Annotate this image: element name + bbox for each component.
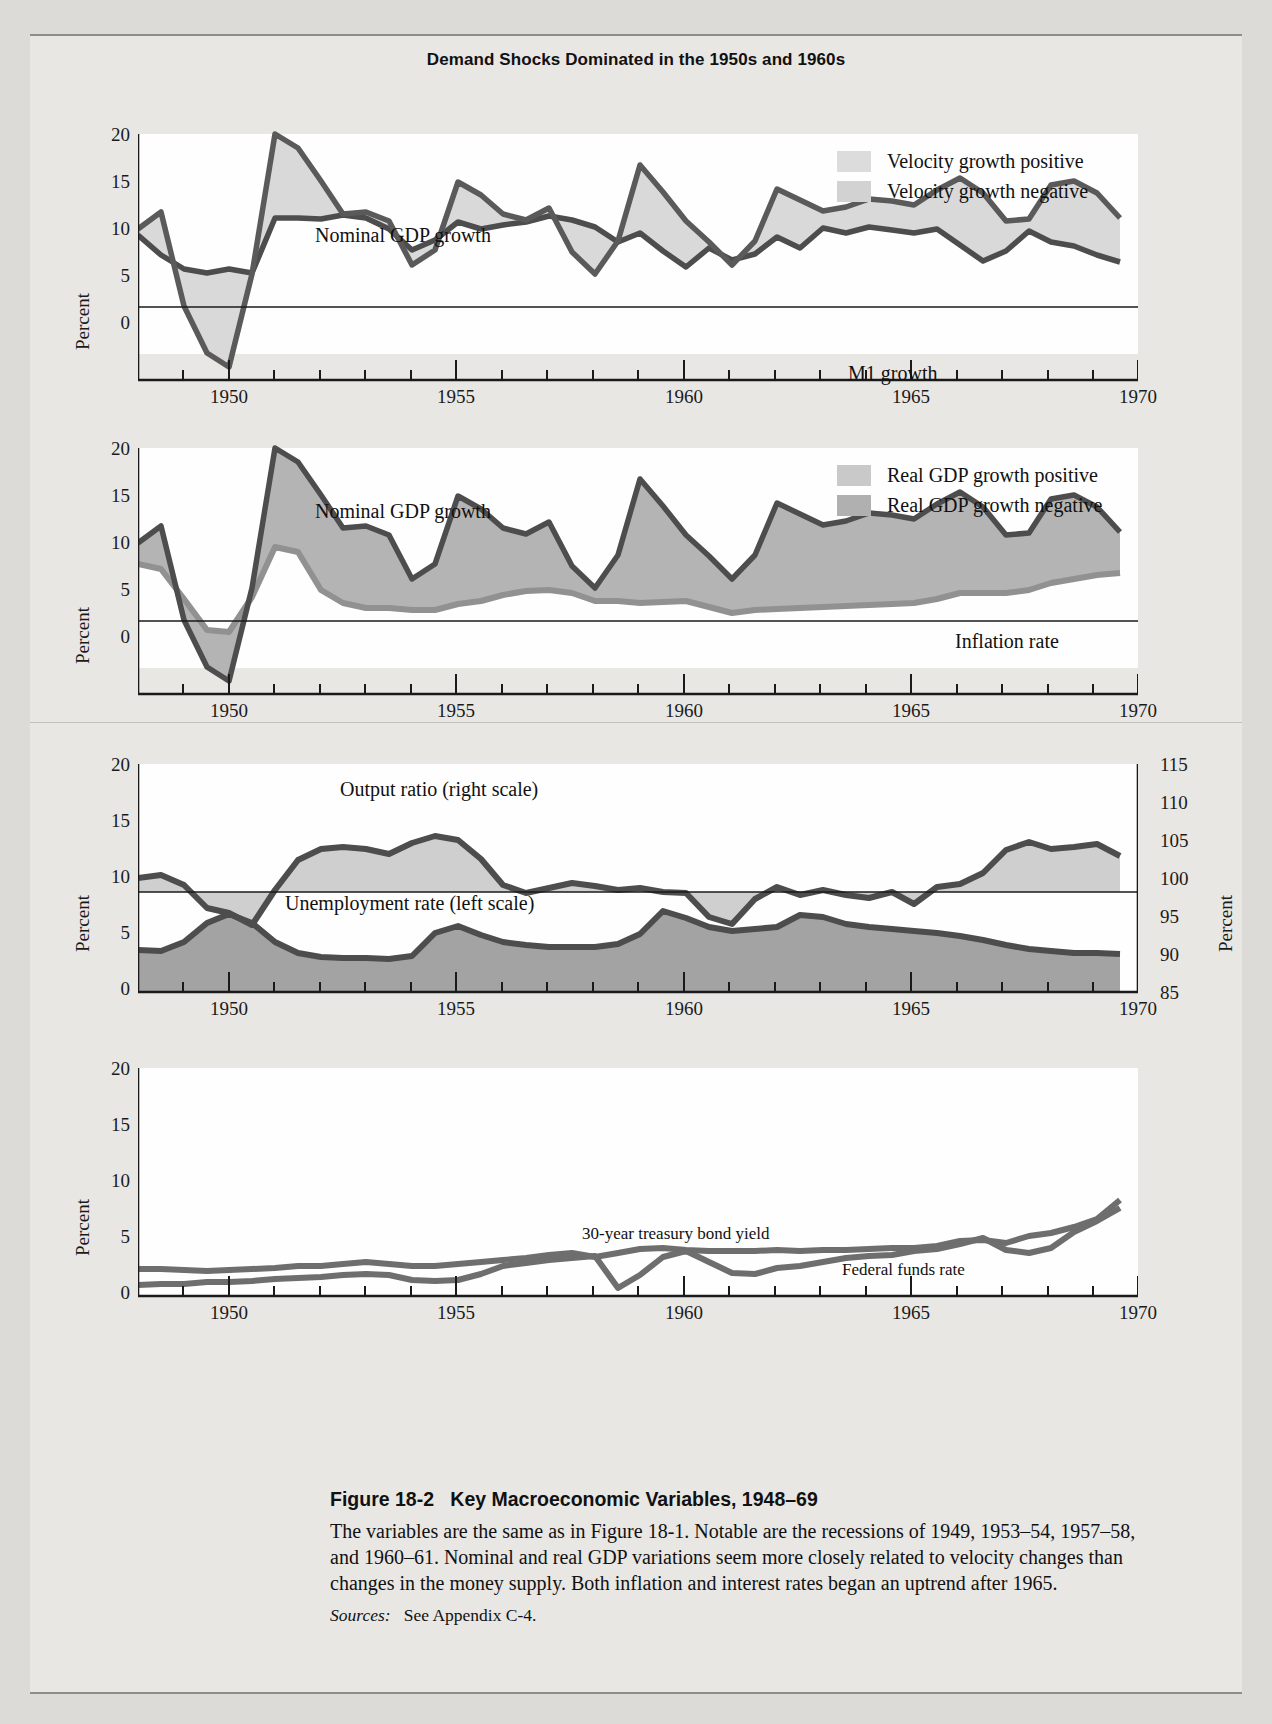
panel4-ytick-15: 15: [88, 1114, 130, 1136]
panel2-label-nominal-gdp: Nominal GDP growth: [315, 500, 491, 523]
panel1-ytick-20: 20: [88, 124, 130, 146]
panel1-ytick-5: 5: [88, 265, 130, 287]
panel3-ytick-0: 0: [88, 978, 130, 1000]
panel3-ytick-15: 15: [88, 810, 130, 832]
panel1-plot: [138, 90, 1138, 390]
panel3-xtick-1955: 1955: [411, 998, 501, 1020]
panel3-xtick-1960: 1960: [639, 998, 729, 1020]
panel4-xtick-1960: 1960: [639, 1302, 729, 1324]
panel2-ytick-5: 5: [88, 579, 130, 601]
figure-caption: Figure 18-2 Key Macroeconomic Variables,…: [330, 1488, 1140, 1626]
panel1-legend-label-negative: Velocity growth negative: [887, 180, 1088, 203]
panel4-xtick-1965: 1965: [866, 1302, 956, 1324]
section-divider: [30, 722, 1242, 723]
real-gdp-positive-swatch: [837, 465, 871, 486]
panel4-xtick-1955: 1955: [411, 1302, 501, 1324]
panel1-ytick-10: 10: [88, 218, 130, 240]
panel4-label-federal-funds: Federal funds rate: [842, 1260, 965, 1280]
panel4-label-bond-yield: 30-year treasury bond yield: [582, 1224, 769, 1244]
panel-interest-rates: Percent 20 15 10 5 0: [30, 1036, 1242, 1336]
panel2-legend-label-positive: Real GDP growth positive: [887, 464, 1098, 487]
panel2-ytick-20: 20: [88, 438, 130, 460]
panel3-ytick-5: 5: [88, 922, 130, 944]
panel4-ytick-5: 5: [88, 1226, 130, 1248]
panel2-label-inflation: Inflation rate: [955, 630, 1059, 653]
panel3-label-output-ratio: Output ratio (right scale): [340, 778, 538, 801]
panel1-legend-item-positive: Velocity growth positive: [837, 150, 1088, 173]
panel4-plot: [138, 1036, 1138, 1336]
panel2-xtick-1965: 1965: [866, 700, 956, 722]
panel4-xtick-1950: 1950: [184, 1302, 274, 1324]
panel3-label-unemployment: Unemployment rate (left scale): [285, 892, 534, 915]
panel1-ytick-15: 15: [88, 171, 130, 193]
velocity-negative-swatch: [837, 181, 871, 202]
panel3-ytickR-95: 95: [1160, 906, 1204, 928]
panel3-ytickR-100: 100: [1160, 868, 1204, 890]
caption-figure-number: Figure 18-2: [330, 1488, 434, 1510]
panel-real-gdp: Percent 20 15 10 5 0: [30, 404, 1242, 704]
panel2-ytick-0: 0: [88, 626, 130, 648]
panel2-legend: Real GDP growth positive Real GDP growth…: [837, 464, 1102, 524]
chart-title: Demand Shocks Dominated in the 1950s and…: [30, 50, 1242, 70]
panel3-ytickR-110: 110: [1160, 792, 1204, 814]
panel4-ytick-20: 20: [88, 1058, 130, 1080]
panel2-xtick-1960: 1960: [639, 700, 729, 722]
panel2-xtick-1950: 1950: [184, 700, 274, 722]
panel2-ytick-15: 15: [88, 485, 130, 507]
velocity-positive-swatch: [837, 151, 871, 172]
panel3-xtick-1965: 1965: [866, 998, 956, 1020]
panel2-legend-item-negative: Real GDP growth negative: [837, 494, 1102, 517]
panel4-ytick-0: 0: [88, 1282, 130, 1304]
panel3-ytick-20: 20: [88, 754, 130, 776]
panel-output-unemployment: Percent Percent 20 15 10 5 0 115 110 105…: [30, 732, 1242, 1032]
panel-velocity: Percent 20 15 10 5 0: [30, 90, 1242, 390]
caption-body: The variables are the same as in Figure …: [330, 1518, 1140, 1596]
panel3-plot: [138, 732, 1138, 1032]
panel4-ytick-10: 10: [88, 1170, 130, 1192]
panel3-ytick-10: 10: [88, 866, 130, 888]
caption-title: Key Macroeconomic Variables, 1948–69: [450, 1488, 817, 1510]
panel2-legend-label-negative: Real GDP growth negative: [887, 494, 1102, 517]
panel1-label-m1-growth: M1 growth: [848, 362, 937, 385]
caption-heading: Figure 18-2 Key Macroeconomic Variables,…: [330, 1488, 1140, 1511]
panel2-legend-item-positive: Real GDP growth positive: [837, 464, 1102, 487]
figure-page: Demand Shocks Dominated in the 1950s and…: [0, 0, 1272, 1724]
panel2-plot: [138, 404, 1138, 704]
figure-sheet: Demand Shocks Dominated in the 1950s and…: [30, 34, 1242, 1694]
panel3-xtick-1950: 1950: [184, 998, 274, 1020]
panel3-y-axis-label-right: Percent: [1215, 895, 1237, 952]
real-gdp-negative-swatch: [837, 495, 871, 516]
caption-sources: Sources: See Appendix C-4.: [330, 1605, 1140, 1626]
panel4-xtick-1970: 1970: [1093, 1302, 1183, 1324]
panel3-ytickR-105: 105: [1160, 830, 1204, 852]
panel2-ytick-10: 10: [88, 532, 130, 554]
panel3-xtick-1970: 1970: [1093, 998, 1183, 1020]
panel1-label-nominal-gdp: Nominal GDP growth: [315, 224, 491, 247]
panel3-ytickR-115: 115: [1160, 754, 1204, 776]
panel1-ytick-0: 0: [88, 312, 130, 334]
panel2-xtick-1955: 1955: [411, 700, 501, 722]
caption-sources-text: See Appendix C-4.: [404, 1605, 537, 1625]
panel2-xtick-1970: 1970: [1093, 700, 1183, 722]
panel1-legend-item-negative: Velocity growth negative: [837, 180, 1088, 203]
panel3-ytickR-90: 90: [1160, 944, 1204, 966]
caption-sources-label: Sources:: [330, 1605, 391, 1625]
panel1-legend-label-positive: Velocity growth positive: [887, 150, 1084, 173]
panel1-legend: Velocity growth positive Velocity growth…: [837, 150, 1088, 210]
